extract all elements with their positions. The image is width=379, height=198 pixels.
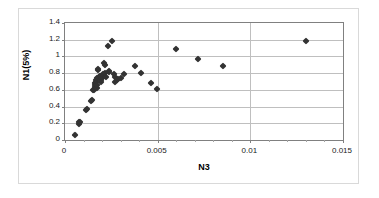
x-axis-minor-tick	[324, 140, 325, 142]
x-axis-minor-tick	[269, 140, 270, 142]
gridline-horizontal	[65, 90, 343, 91]
gridline-horizontal	[65, 40, 343, 41]
x-axis-minor-tick	[121, 140, 122, 142]
x-axis-minor-tick	[176, 140, 177, 142]
gridline-vertical	[250, 23, 251, 140]
x-axis-tick	[250, 140, 251, 143]
y-axis-tick	[62, 123, 65, 124]
data-point-marker	[302, 37, 309, 44]
x-axis-title: N3	[64, 162, 344, 172]
plot-area	[64, 22, 344, 141]
gridline-horizontal	[65, 123, 343, 124]
x-axis-tick-labels: 00.0050.010.015	[64, 146, 344, 158]
data-point-marker	[153, 86, 160, 93]
x-axis-tick-label: 0.01	[242, 146, 258, 155]
gridline-vertical	[158, 23, 159, 140]
x-axis-tick-label: 0.005	[147, 146, 167, 155]
x-axis-minor-tick	[195, 140, 196, 142]
data-point-marker	[220, 62, 227, 69]
x-axis-tick-label: 0	[62, 146, 66, 155]
x-axis-minor-tick	[102, 140, 103, 142]
data-point-marker	[131, 62, 138, 69]
x-axis-tick	[158, 140, 159, 143]
data-point-marker	[148, 79, 155, 86]
y-axis-tick-label: 0.8	[49, 68, 60, 76]
y-axis-title: N1(5%)	[21, 35, 31, 95]
y-axis-tick	[62, 40, 65, 41]
x-axis-minor-tick	[139, 140, 140, 142]
x-axis-minor-tick	[232, 140, 233, 142]
y-axis-tick	[62, 107, 65, 108]
y-axis-tick-label: 0	[56, 135, 60, 143]
y-axis-tick-label: 1.2	[49, 35, 60, 43]
y-axis-tick-label: 0.2	[49, 118, 60, 126]
x-axis-minor-tick	[287, 140, 288, 142]
y-axis-tick	[62, 56, 65, 57]
x-axis-minor-tick	[84, 140, 85, 142]
x-axis-tick-label: 0.015	[332, 146, 352, 155]
chart-figure: N1(5%) 00.20.40.60.811.21.4 00.0050.010.…	[0, 0, 379, 198]
y-axis-tick	[62, 73, 65, 74]
gridline-horizontal	[65, 107, 343, 108]
data-point-marker	[137, 70, 144, 77]
x-axis-tick	[343, 140, 344, 143]
data-point-marker	[72, 132, 79, 139]
x-axis-minor-tick	[213, 140, 214, 142]
y-axis-tick-label: 1.4	[49, 18, 60, 26]
y-axis-tick-label: 1	[56, 51, 60, 59]
x-axis-tick	[65, 140, 66, 143]
y-axis-tick	[62, 90, 65, 91]
data-point-marker	[194, 56, 201, 63]
y-axis-tick	[62, 23, 65, 24]
y-axis-tick-label: 0.6	[49, 85, 60, 93]
y-axis-tick-labels: 00.20.40.60.811.21.4	[34, 22, 60, 141]
data-point-marker	[173, 46, 180, 53]
x-axis-minor-tick	[306, 140, 307, 142]
gridline-horizontal	[65, 56, 343, 57]
y-axis-tick-label: 0.4	[49, 102, 60, 110]
